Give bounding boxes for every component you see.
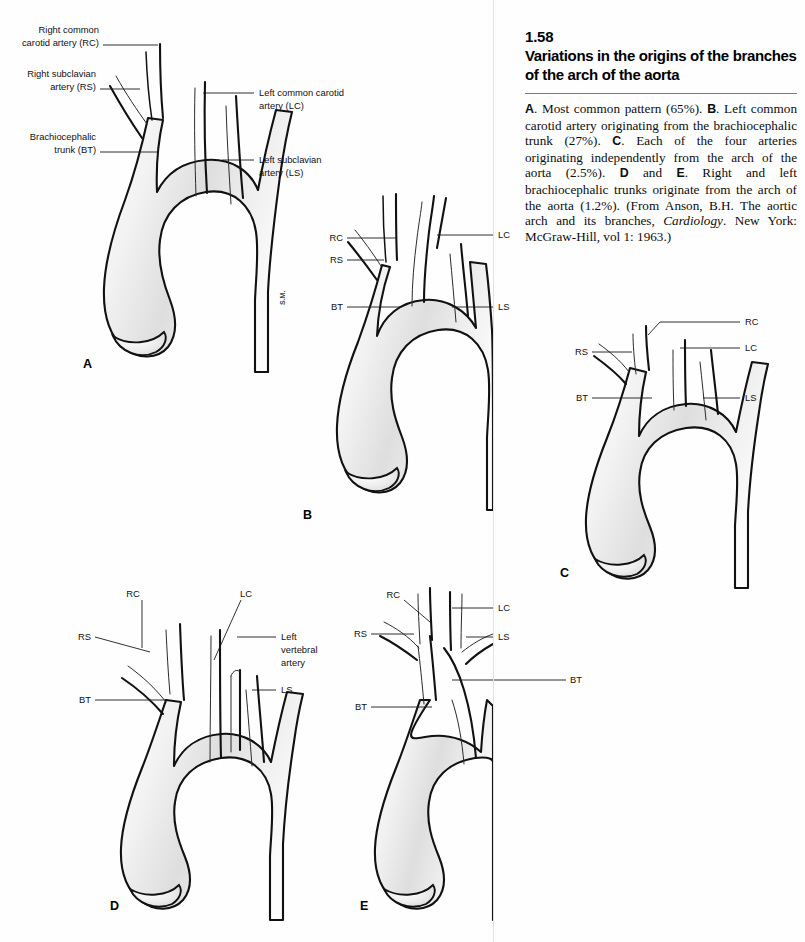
panel-D-aorta-body [121, 692, 303, 920]
figure-illustration-area: Right common carotid artery (RC) Right s… [0, 0, 493, 942]
panel-B-label-LS: LS [498, 301, 509, 312]
panel-letter-C: C [560, 566, 569, 580]
panel-D-label-RS: RS [78, 631, 91, 642]
panel-letter-B: B [303, 508, 312, 522]
panel-D-left-common-carotid [220, 630, 221, 758]
caption-panel-letter: D [620, 166, 629, 180]
panel-E-label-BT-left: BT [355, 701, 367, 712]
panel-E-label-BT-right: BT [570, 674, 582, 685]
panel-C-aortic-root [595, 555, 646, 577]
caption-panel-letter: B [707, 102, 716, 116]
panel-B-right-subclavian-outer [348, 242, 377, 280]
panel-B-left-common-carotid [437, 198, 446, 248]
panel-C-aorta-body [586, 362, 768, 588]
figure-title: Variations in the origins of the branche… [525, 47, 797, 84]
panel-A-label-RS-line2: artery (RS) [50, 81, 96, 92]
figure-number: 1.58 [525, 28, 797, 46]
panel-A-right-common-carotid [146, 52, 152, 120]
panel-C-label-RC: RC [745, 316, 759, 327]
panel-D-label-LC: LC [240, 588, 252, 599]
panel-B-common-trunk-lc [424, 196, 434, 302]
caption-panel-letter: E [676, 166, 684, 180]
caption-block: 1.58 Variations in the origins of the br… [525, 28, 797, 244]
panel-A-label-LS-line2: artery (LS) [259, 167, 303, 178]
panel-B-label-LC: LC [498, 229, 510, 240]
panel-D-right-common-carotid [180, 624, 184, 700]
panel-C-right-common-carotid [646, 326, 649, 370]
panel-B-label-RS: RS [330, 254, 343, 265]
panel-A-right-subclavian-outer [110, 86, 142, 138]
panel-B-label-BT: BT [331, 301, 343, 312]
panel-B-right-subclavian [355, 230, 381, 266]
panel-D-label-LV-line2: vertebral [281, 644, 317, 655]
panel-B-label-RC: RC [329, 232, 343, 243]
aortic-arch-variations-svg: Right common carotid artery (RC) Right s… [0, 0, 493, 942]
panel-D-label-RC: RC [126, 588, 140, 599]
panel-D: RC RS BT LC Left vertebral artery LS D [78, 588, 318, 920]
panel-D-left-vertebral-artery-tip [231, 670, 240, 676]
panel-E-label-LS: LS [498, 631, 509, 642]
panel-A-label-BT-line2: trunk (BT) [54, 144, 96, 155]
panel-B-right-common-carotid-outer [396, 194, 397, 260]
panel-C-left-common-carotid [685, 340, 686, 406]
column-divider [493, 0, 494, 942]
caption-panel-letter: A [525, 102, 534, 116]
caption-journal-name: Cardiology [663, 213, 723, 228]
panel-E-left-common-carotid-inner [461, 594, 462, 648]
panel-A: Right common carotid artery (RC) Right s… [22, 24, 344, 372]
panel-A-label-RS-line1: Right subclavian [27, 68, 96, 79]
panel-E-label-LC: LC [498, 602, 510, 613]
panel-D-label-LS: LS [281, 684, 292, 695]
panel-letter-E: E [360, 899, 368, 913]
panel-D-right-subclavian-outer [122, 678, 163, 714]
panel-C-leader-RC [648, 322, 740, 335]
panel-letter-D: D [110, 899, 119, 913]
artist-signature: S.M. [279, 291, 286, 305]
panel-E-right-subclavian [384, 622, 419, 648]
panel-letter-A: A [83, 357, 92, 371]
panel-C-right-common-carotid-inner [633, 334, 636, 374]
panel-B: RC RS BT B [303, 194, 493, 522]
panel-E-label-RS: RS [354, 628, 367, 639]
panel-A-label-LC-line2: artery (LC) [259, 100, 304, 111]
panel-A-right-common-carotid-outer [160, 44, 163, 118]
panel-E-right-common-carotid [430, 588, 432, 640]
panel-C-left-subclavian-inner [700, 362, 706, 420]
panel-C-right-subclavian-outer [594, 356, 626, 384]
panel-A-right-subclavian [116, 76, 147, 124]
panel-B-aorta-body [337, 262, 493, 510]
panel-C-right-subclavian [599, 344, 629, 372]
panel-C-label-RS: RS [575, 346, 588, 357]
panel-E-left-subclavian-outer [466, 644, 493, 664]
panel-C-label-LS: LS [745, 392, 756, 403]
panel-D-leader-LC [214, 600, 241, 660]
panel-A-label-RC-line1: Right common [39, 24, 99, 35]
panel-A-aorta-body [104, 110, 292, 372]
panel-E-leader-RC [404, 600, 430, 622]
caption-panel-letter: C [612, 134, 621, 148]
panel-B-left-subclavian [461, 244, 468, 316]
panel-B-right-common-carotid [383, 196, 386, 262]
panel-A-label-LS-line1: Left subclavian [259, 154, 322, 165]
panel-D-label-LV-line3: artery [281, 657, 305, 668]
panel-C-label-BT: BT [576, 392, 588, 403]
caption-body-text: A. Most common pattern (65%). B. Left co… [525, 101, 797, 244]
panel-C: RC RS BT LC LS C [560, 316, 768, 588]
panel-A-label-BT-line1: Brachiocephalic [30, 131, 96, 142]
panel-E-label-RC: RC [386, 589, 400, 600]
panel-E-right-brachiocephalic-trunk [430, 636, 436, 700]
panel-D-label-LV-line1: Left [281, 631, 297, 642]
panel-C-left-common-carotid-inner [673, 350, 674, 410]
panel-A-label-RC-line2: carotid artery (RC) [22, 37, 99, 48]
panel-D-right-common-carotid-inner [166, 630, 170, 694]
caption-divider-rule [525, 93, 797, 94]
panel-C-left-subclavian [711, 350, 718, 414]
figure-page: Right common carotid artery (RC) Right s… [0, 0, 805, 942]
panel-A-label-LC-line1: Left common carotid [259, 87, 344, 98]
panel-C-label-LC: LC [745, 342, 757, 353]
panel-E-right-common-carotid-inner [418, 594, 420, 644]
panel-E: RC RS BT E [354, 588, 493, 920]
panel-E-right-brachiocephalic-trunk-inner [418, 646, 424, 704]
panel-E-right-subclavian-outer [380, 636, 417, 660]
panel-D-label-BT: BT [79, 694, 91, 705]
